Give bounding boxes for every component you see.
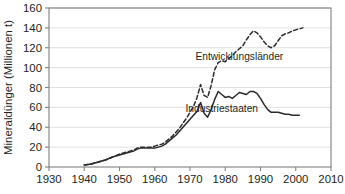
line-chart: 020406080100120140160 193019401950196019… [0, 0, 345, 194]
chart-container: 020406080100120140160 193019401950196019… [0, 0, 345, 194]
y-tick-label: 20 [29, 141, 42, 153]
x-tick-label: 2010 [318, 173, 343, 185]
series-label-entwicklungsl-nder: Entwicklungsländer [195, 51, 283, 62]
x-tick-label: 2000 [283, 173, 308, 185]
x-tick-label: 1990 [248, 173, 273, 185]
x-tick-label: 1940 [72, 173, 97, 185]
y-axis-tickmarks [45, 8, 49, 167]
y-tick-label: 160 [23, 2, 42, 14]
series-line-entwicklungsl-nder [84, 28, 303, 165]
x-tick-label: 1970 [177, 173, 202, 185]
y-tick-label: 40 [29, 121, 42, 133]
y-axis-title: Mineraldünger (Millionen t) [2, 20, 14, 155]
series-lines [84, 28, 303, 165]
series-label-industriestaaten: Industriestaaten [185, 103, 258, 114]
x-tick-label: 1980 [213, 173, 238, 185]
gridlines [49, 8, 331, 147]
x-tick-label: 1950 [107, 173, 132, 185]
y-tick-label: 60 [29, 101, 42, 113]
y-tick-label: 140 [23, 22, 42, 34]
y-tick-label: 120 [23, 42, 42, 54]
x-axis-tick-labels: 193019401950196019701980199020002010 [36, 173, 343, 185]
series-annotations: EntwicklungsländerIndustriestaaten [185, 51, 283, 115]
y-tick-label: 100 [23, 62, 42, 74]
x-tick-label: 1930 [36, 173, 61, 185]
y-tick-label: 0 [36, 161, 42, 173]
y-axis-tick-labels: 020406080100120140160 [23, 2, 42, 173]
x-axis-tickmarks [49, 167, 331, 171]
y-tick-label: 80 [29, 82, 42, 94]
x-tick-label: 1960 [142, 173, 167, 185]
